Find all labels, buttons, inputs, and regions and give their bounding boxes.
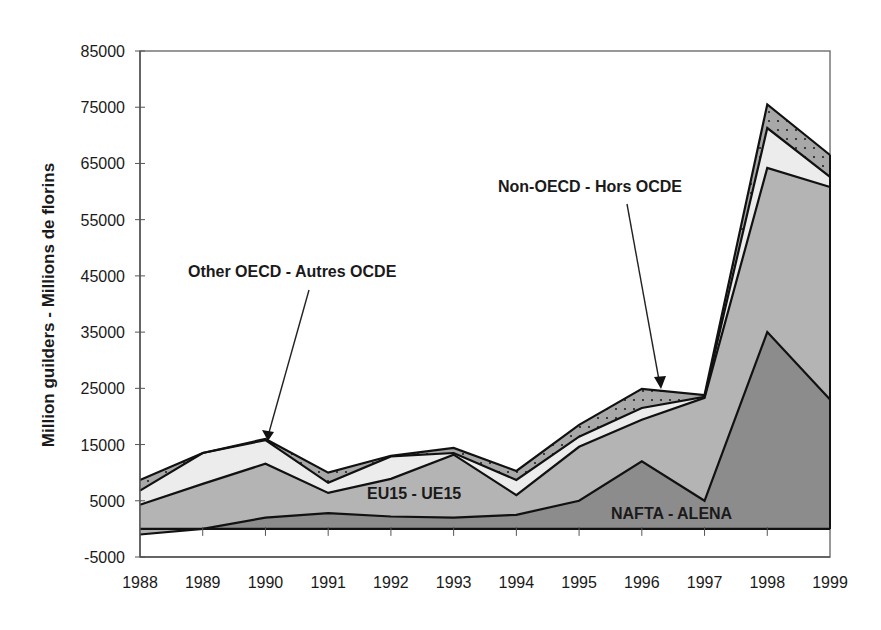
y-tick-label: 5000 — [89, 493, 125, 510]
x-tick-label: 1989 — [185, 574, 221, 591]
x-tick-label: 1995 — [561, 574, 597, 591]
y-tick-label: 85000 — [81, 43, 126, 60]
annotation-other-oecd: Other OECD - Autres OCDE — [188, 263, 397, 280]
x-tick-label: 1994 — [499, 574, 535, 591]
y-tick-label: 65000 — [81, 155, 126, 172]
y-tick-label: -5000 — [84, 549, 125, 566]
y-tick-label: 35000 — [81, 324, 126, 341]
x-tick-label: 1993 — [436, 574, 472, 591]
y-tick-label: 45000 — [81, 268, 126, 285]
y-tick-label: 75000 — [81, 99, 126, 116]
stacked-area-chart: 8500075000650005500045000350002500015000… — [0, 0, 881, 630]
x-tick-label: 1992 — [373, 574, 409, 591]
y-axis-ticks: 8500075000650005500045000350002500015000… — [81, 43, 146, 566]
y-tick-label: 55000 — [81, 212, 126, 229]
x-tick-label: 1991 — [310, 574, 346, 591]
y-tick-label: 25000 — [81, 380, 126, 397]
x-tick-label: 1998 — [749, 574, 785, 591]
x-tick-label: 1996 — [624, 574, 660, 591]
x-tick-label: 1997 — [687, 574, 723, 591]
x-tick-label: 1990 — [248, 574, 284, 591]
annotation-eu15: EU15 - UE15 — [367, 485, 461, 502]
annotation-non-oecd: Non-OECD - Hors OCDE — [498, 178, 682, 195]
y-axis-label: Million guilders - Millions de florins — [39, 163, 58, 447]
y-tick-label: 15000 — [81, 437, 126, 454]
x-tick-label: 1999 — [812, 574, 848, 591]
x-tick-label: 1988 — [122, 574, 158, 591]
annotation-nafta: NAFTA - ALENA — [611, 505, 733, 522]
